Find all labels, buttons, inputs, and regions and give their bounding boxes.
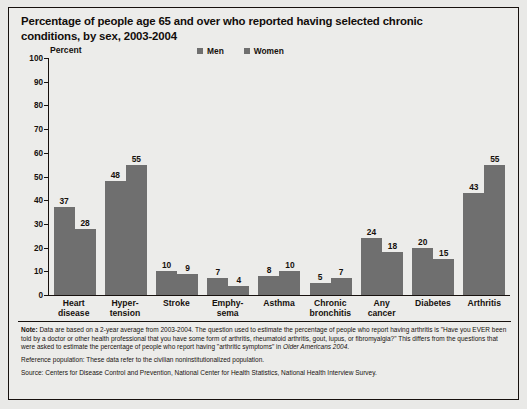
x-axis-label-line: Stroke: [151, 298, 202, 308]
bar-pair: 2418: [356, 58, 407, 295]
bar-men[interactable]: [207, 278, 228, 295]
bar-group: 4355: [459, 58, 510, 295]
bar-value-label: 55: [490, 154, 499, 164]
bar-column: 43: [463, 58, 484, 295]
bar-pair: 74: [203, 58, 254, 295]
y-axis-tick-label: 30: [34, 219, 43, 228]
bar-value-label: 24: [367, 227, 376, 237]
y-axis-tick-label: 50: [34, 172, 43, 181]
y-axis-tick-label: 20: [34, 243, 43, 252]
note-label: Note:: [21, 326, 38, 333]
bar-column: 9: [177, 58, 198, 295]
bar-value-label: 8: [267, 265, 272, 275]
bar-value-label: 15: [439, 248, 448, 258]
chart-frame: Percentage of people age 65 and over who…: [8, 7, 519, 400]
plot-area: 0102030405060708090100 37284855109748105…: [48, 58, 510, 296]
bar-men[interactable]: [54, 207, 75, 295]
bar-women[interactable]: [126, 165, 147, 295]
bar-value-label: 55: [132, 154, 141, 164]
x-axis-label-line: [151, 308, 202, 318]
bar-column: 5: [310, 58, 331, 295]
x-axis-label: Hyper-tension: [99, 298, 150, 318]
y-axis-tick-label: 10: [34, 267, 43, 276]
bar-column: 15: [433, 58, 454, 295]
y-axis-tick: [44, 295, 49, 296]
bar-value-label: 7: [215, 267, 220, 277]
x-axis-label-line: cancer: [356, 308, 407, 318]
y-axis-tick-label: 80: [34, 101, 43, 110]
y-axis-tick-label: 90: [34, 77, 43, 86]
bar-column: 7: [207, 58, 228, 295]
x-axis-label: Emphy-sema: [202, 298, 253, 318]
x-axis-label: Asthma: [253, 298, 304, 318]
bar-column: 4: [228, 58, 249, 295]
x-axis-label: Chronicbronchitis: [305, 298, 356, 318]
bar-pair: 57: [305, 58, 356, 295]
x-axis-label-line: sema: [202, 308, 253, 318]
x-axis-label: Heartdisease: [48, 298, 99, 318]
bar-men[interactable]: [361, 238, 382, 295]
bar-value-label: 4: [236, 275, 241, 285]
bar-men[interactable]: [412, 248, 433, 295]
source-note: Source: Centers for Disease Control and …: [21, 369, 508, 378]
x-axis-label-line: [253, 308, 304, 318]
legend-swatch-men: [197, 48, 203, 54]
note-paragraph: Note: Data are based on a 2-year average…: [21, 326, 508, 352]
bar-column: 55: [126, 58, 147, 295]
x-axis-label-line: Emphy-: [202, 298, 253, 308]
notes-divider: [18, 321, 511, 322]
bar-men[interactable]: [258, 276, 279, 295]
bar-men[interactable]: [156, 271, 177, 295]
bar-men[interactable]: [105, 181, 126, 295]
x-axis-label-line: Asthma: [253, 298, 304, 308]
bar-column: 10: [279, 58, 300, 295]
chart-title-line-2: conditions, by sex, 2003-2004: [21, 29, 501, 44]
bar-group: 109: [151, 58, 202, 295]
bar-pair: 2015: [408, 58, 459, 295]
x-axis-label-line: tension: [99, 308, 150, 318]
x-axis-labels: HeartdiseaseHyper-tensionStroke Emphy-se…: [48, 298, 510, 318]
bar-column: 55: [484, 58, 505, 295]
bar-women[interactable]: [382, 252, 403, 295]
bar-women[interactable]: [433, 259, 454, 295]
bar-value-label: 37: [59, 196, 68, 206]
bar-group: 57: [305, 58, 356, 295]
x-axis-label: Stroke: [151, 298, 202, 318]
bar-women[interactable]: [75, 229, 96, 295]
bar-value-label: 9: [185, 263, 190, 273]
note-tail: .: [347, 343, 349, 350]
note-body: Data are based on a 2-year average from …: [21, 326, 506, 350]
bar-men[interactable]: [310, 283, 331, 295]
bar-column: 48: [105, 58, 126, 295]
y-axis-title: Percent: [50, 45, 82, 55]
legend-item-women: Women: [244, 46, 284, 56]
bar-column: 18: [382, 58, 403, 295]
x-axis-label-line: Arthritis: [459, 298, 510, 308]
bar-women[interactable]: [177, 274, 198, 295]
bar-women[interactable]: [331, 278, 352, 295]
bar-value-label: 43: [469, 182, 478, 192]
bar-women[interactable]: [228, 286, 249, 295]
chart-title-line-1: Percentage of people age 65 and over who…: [21, 14, 501, 29]
bar-pair: 3728: [49, 58, 100, 295]
y-axis-tick-label: 70: [34, 125, 43, 134]
bar-group: 74: [203, 58, 254, 295]
bar-value-label: 7: [339, 267, 344, 277]
bar-men[interactable]: [463, 193, 484, 295]
x-axis-label-line: Hyper-: [99, 298, 150, 308]
bar-women[interactable]: [484, 165, 505, 295]
bar-groups: 372848551097481057241820154355: [49, 58, 510, 295]
bar-column: 8: [258, 58, 279, 295]
chart-notes: Note: Data are based on a 2-year average…: [21, 326, 508, 382]
bar-group: 2418: [356, 58, 407, 295]
bar-pair: 109: [151, 58, 202, 295]
plot-axes: 0102030405060708090100 37284855109748105…: [48, 58, 510, 296]
x-axis-label-line: disease: [48, 308, 99, 318]
bar-column: 7: [331, 58, 352, 295]
legend-label-women: Women: [254, 46, 284, 56]
bar-women[interactable]: [279, 271, 300, 295]
bar-column: 20: [412, 58, 433, 295]
bar-value-label: 18: [388, 241, 397, 251]
bar-group: 2015: [408, 58, 459, 295]
y-axis-tick-label: 60: [34, 148, 43, 157]
